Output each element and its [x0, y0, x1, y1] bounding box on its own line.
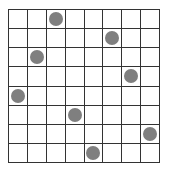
board-cell[interactable]	[9, 48, 28, 67]
piece-circle-icon[interactable]	[143, 127, 157, 141]
board-cell[interactable]	[47, 48, 66, 67]
board-cell[interactable]	[122, 10, 141, 29]
board-cell[interactable]	[66, 67, 85, 86]
board-cell[interactable]	[47, 106, 66, 125]
board-cell[interactable]	[47, 10, 66, 29]
board-cell[interactable]	[9, 10, 28, 29]
board-cell[interactable]	[103, 67, 122, 86]
board-cell[interactable]	[122, 144, 141, 163]
board-cell[interactable]	[103, 29, 122, 48]
board-cell[interactable]	[85, 125, 104, 144]
board-cell[interactable]	[66, 144, 85, 163]
board-cell[interactable]	[66, 106, 85, 125]
board-cell[interactable]	[141, 125, 160, 144]
piece-circle-icon[interactable]	[68, 108, 82, 122]
board-cell[interactable]	[28, 10, 47, 29]
board-cell[interactable]	[103, 87, 122, 106]
board-cell[interactable]	[66, 10, 85, 29]
board-cell[interactable]	[9, 125, 28, 144]
board-cell[interactable]	[66, 48, 85, 67]
board-cell[interactable]	[122, 87, 141, 106]
board-cell[interactable]	[9, 144, 28, 163]
board-cell[interactable]	[9, 67, 28, 86]
board-cell[interactable]	[122, 48, 141, 67]
board-cell[interactable]	[122, 67, 141, 86]
board-cell[interactable]	[28, 87, 47, 106]
board-cell[interactable]	[103, 144, 122, 163]
board-cell[interactable]	[28, 67, 47, 86]
piece-circle-icon[interactable]	[124, 69, 138, 83]
board-cell[interactable]	[85, 48, 104, 67]
board-cell[interactable]	[103, 10, 122, 29]
board-cell[interactable]	[47, 87, 66, 106]
board-cell[interactable]	[141, 106, 160, 125]
board-cell[interactable]	[85, 67, 104, 86]
board-cell[interactable]	[28, 144, 47, 163]
board-cell[interactable]	[141, 87, 160, 106]
board-cell[interactable]	[141, 144, 160, 163]
board-cell[interactable]	[28, 106, 47, 125]
board-cell[interactable]	[141, 48, 160, 67]
board-cell[interactable]	[85, 106, 104, 125]
board-cell[interactable]	[9, 106, 28, 125]
piece-circle-icon[interactable]	[11, 89, 25, 103]
board-cell[interactable]	[103, 125, 122, 144]
board-cell[interactable]	[9, 29, 28, 48]
board-cell[interactable]	[47, 125, 66, 144]
board-cell[interactable]	[47, 67, 66, 86]
piece-circle-icon[interactable]	[105, 31, 119, 45]
board-cell[interactable]	[122, 125, 141, 144]
piece-circle-icon[interactable]	[86, 146, 100, 160]
board-cell[interactable]	[47, 29, 66, 48]
board-cell[interactable]	[141, 29, 160, 48]
board-cell[interactable]	[66, 29, 85, 48]
piece-circle-icon[interactable]	[30, 50, 44, 64]
board-cell[interactable]	[85, 87, 104, 106]
board-cell[interactable]	[66, 87, 85, 106]
board-cell[interactable]	[47, 144, 66, 163]
game-board	[8, 9, 160, 163]
board-cell[interactable]	[85, 10, 104, 29]
board-cell[interactable]	[103, 48, 122, 67]
board-cell[interactable]	[122, 29, 141, 48]
board-cell[interactable]	[85, 29, 104, 48]
board-cell[interactable]	[141, 10, 160, 29]
board-cell[interactable]	[66, 125, 85, 144]
piece-circle-icon[interactable]	[49, 12, 63, 26]
board-cell[interactable]	[103, 106, 122, 125]
board-cell[interactable]	[122, 106, 141, 125]
board-cell[interactable]	[141, 67, 160, 86]
board-cell[interactable]	[28, 125, 47, 144]
board-cell[interactable]	[9, 87, 28, 106]
board-cell[interactable]	[28, 29, 47, 48]
board-cell[interactable]	[85, 144, 104, 163]
board-cell[interactable]	[28, 48, 47, 67]
